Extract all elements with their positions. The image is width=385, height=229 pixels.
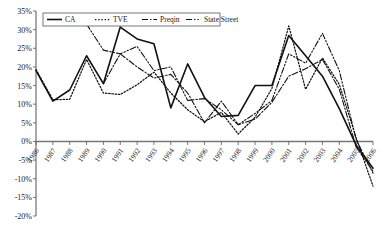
x-tick-label: 1999 xyxy=(244,146,260,164)
series-line-tve xyxy=(36,26,373,186)
x-tick-label: 1997 xyxy=(211,146,227,164)
x-tick-label: 1996 xyxy=(194,146,210,164)
y-tick-label: 5% xyxy=(21,119,32,128)
x-tick-label: 2004 xyxy=(328,146,344,164)
series-line-ca xyxy=(36,27,373,168)
y-tick-label: 0% xyxy=(21,137,32,146)
x-tick-label: 1993 xyxy=(143,146,159,164)
y-tick-label: 35% xyxy=(17,7,32,16)
y-tick-label: 25% xyxy=(17,44,32,53)
legend-label-ca: CA xyxy=(65,15,76,24)
x-tick-label: 1995 xyxy=(177,146,193,164)
x-tick-label: 1994 xyxy=(160,146,176,164)
x-tick-label: 1989 xyxy=(76,146,92,164)
y-tick-label: 15% xyxy=(17,82,32,91)
line-chart: 35%30%25%20%15%10%5%0%-5%-10%-15%-20%198… xyxy=(0,0,385,229)
x-tick-label: 1986 xyxy=(25,146,41,164)
x-tick-label: 2002 xyxy=(295,146,311,164)
x-tick-label: 1987 xyxy=(42,146,58,164)
x-tick-label: 2001 xyxy=(278,146,294,164)
y-tick-label: -10% xyxy=(15,175,33,184)
chart-canvas: 35%30%25%20%15%10%5%0%-5%-10%-15%-20%198… xyxy=(0,0,385,229)
x-tick-label: 1990 xyxy=(93,146,109,164)
y-tick-label: 30% xyxy=(17,26,32,35)
legend-label-preqin: Preqin xyxy=(160,15,180,24)
x-tick-label: 1992 xyxy=(126,146,142,164)
y-tick-label: -20% xyxy=(15,212,33,221)
series-line-state-street xyxy=(87,24,373,173)
x-tick-label: 1991 xyxy=(109,146,125,164)
x-tick-label: 1988 xyxy=(59,146,75,164)
legend-label-state-street: State Street xyxy=(204,15,239,24)
y-tick-label: 10% xyxy=(17,100,32,109)
y-tick-label: -15% xyxy=(15,193,33,202)
x-tick-label: 1998 xyxy=(227,146,243,164)
legend-label-tve: TVE xyxy=(113,15,128,24)
x-tick-label: 2000 xyxy=(261,146,277,164)
y-tick-label: 20% xyxy=(17,63,32,72)
x-tick-label: 2003 xyxy=(312,146,328,164)
